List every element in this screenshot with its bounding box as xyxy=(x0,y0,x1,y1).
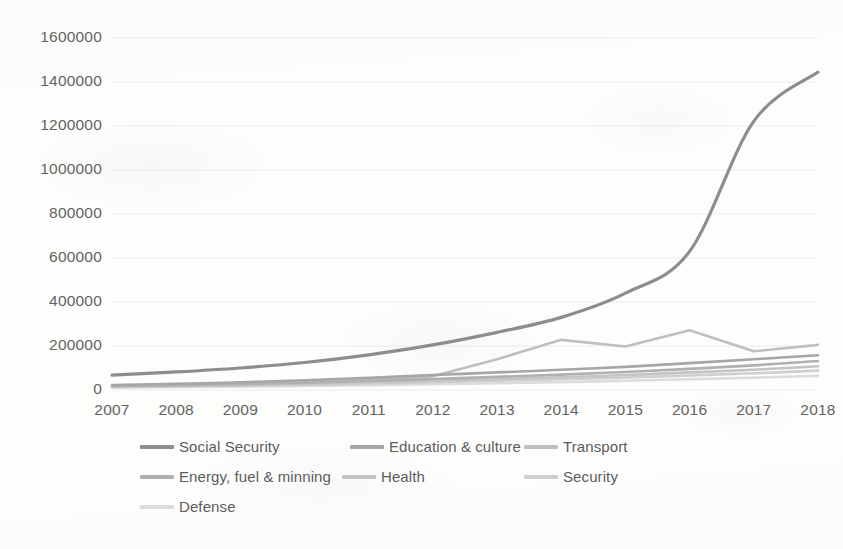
legend-color-swatch-icon xyxy=(140,475,174,479)
chart-legend: Social SecurityEducation & cultureTransp… xyxy=(112,438,812,528)
legend-item[interactable]: Security xyxy=(524,468,618,485)
legend-item-label: Education & culture xyxy=(389,438,521,455)
legend-row: Energy, fuel & minningHealthSecurity xyxy=(112,468,812,498)
x-axis-tick-label: 2018 xyxy=(788,401,843,419)
legend-item-label: Energy, fuel & minning xyxy=(179,468,331,485)
legend-item[interactable]: Energy, fuel & minning xyxy=(140,468,331,485)
legend-color-swatch-icon xyxy=(342,475,376,479)
legend-color-swatch-icon xyxy=(140,445,174,449)
line-chart: 0200000400000600000800000100000012000001… xyxy=(0,0,843,549)
legend-item[interactable]: Defense xyxy=(140,498,236,515)
x-axis-tick-label: 2010 xyxy=(275,401,335,419)
legend-row: Social SecurityEducation & cultureTransp… xyxy=(112,438,812,468)
x-axis-tick-label: 2016 xyxy=(660,401,720,419)
series-line xyxy=(112,72,818,375)
x-axis-tick-label: 2009 xyxy=(210,401,270,419)
x-axis-tick-label: 2012 xyxy=(403,401,463,419)
legend-item[interactable]: Transport xyxy=(524,438,628,455)
x-axis-tick-label: 2008 xyxy=(146,401,206,419)
y-axis-tick-label: 800000 xyxy=(14,204,102,222)
legend-color-swatch-icon xyxy=(524,445,558,449)
legend-item[interactable]: Social Security xyxy=(140,438,280,455)
y-axis-tick-label: 1600000 xyxy=(14,28,102,46)
x-axis-tick-label: 2011 xyxy=(339,401,399,419)
legend-item-label: Security xyxy=(563,468,618,485)
y-axis-tick-label: 1000000 xyxy=(14,160,102,178)
x-axis-tick-label: 2014 xyxy=(531,401,591,419)
y-axis-tick-label: 0 xyxy=(14,380,102,398)
legend-item-label: Defense xyxy=(179,498,236,515)
legend-color-swatch-icon xyxy=(140,505,174,509)
legend-item[interactable]: Education & culture xyxy=(350,438,521,455)
x-axis-tick-label: 2013 xyxy=(467,401,527,419)
y-axis-tick-label: 200000 xyxy=(14,336,102,354)
legend-item-label: Health xyxy=(381,468,425,485)
x-axis-tick-label: 2017 xyxy=(724,401,784,419)
y-axis-tick-label: 1400000 xyxy=(14,72,102,90)
series-lines xyxy=(112,72,818,387)
x-axis-tick-label: 2015 xyxy=(595,401,655,419)
legend-item-label: Transport xyxy=(563,438,628,455)
x-axis-tick-label: 2007 xyxy=(82,401,142,419)
legend-color-swatch-icon xyxy=(350,445,384,449)
legend-item[interactable]: Health xyxy=(342,468,425,485)
y-axis-tick-label: 1200000 xyxy=(14,116,102,134)
legend-color-swatch-icon xyxy=(524,475,558,479)
y-axis-tick-label: 400000 xyxy=(14,292,102,310)
legend-row: Defense xyxy=(112,498,812,528)
legend-item-label: Social Security xyxy=(179,438,280,455)
y-axis-tick-label: 600000 xyxy=(14,248,102,266)
